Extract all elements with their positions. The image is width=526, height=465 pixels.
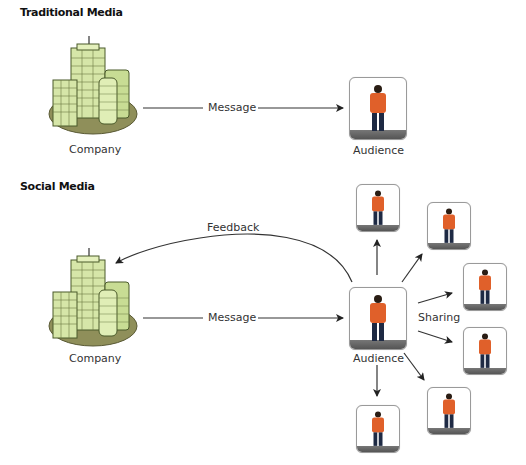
social-message-label: Message <box>208 311 256 324</box>
company-buildings-icon <box>45 32 139 136</box>
social-company-label: Company <box>69 352 121 365</box>
social-audience-label: Audience <box>353 352 404 365</box>
social-company-buildings-icon <box>45 244 139 348</box>
shared-audience-person-icon <box>463 263 507 311</box>
traditional-company-label: Company <box>69 143 121 156</box>
shared-audience-person-icon <box>463 327 507 375</box>
shared-audience-person-icon <box>356 405 400 453</box>
sharing-label: Sharing <box>418 311 460 324</box>
shared-audience-person-icon <box>427 387 471 435</box>
social-audience-person-icon <box>349 287 407 350</box>
traditional-message-label: Message <box>208 101 256 114</box>
shared-audience-person-icon <box>427 202 471 250</box>
traditional-audience-label: Audience <box>353 144 404 157</box>
feedback-label: Feedback <box>207 221 259 234</box>
traditional-audience-person-icon <box>349 77 407 140</box>
shared-audience-person-icon <box>356 184 400 232</box>
